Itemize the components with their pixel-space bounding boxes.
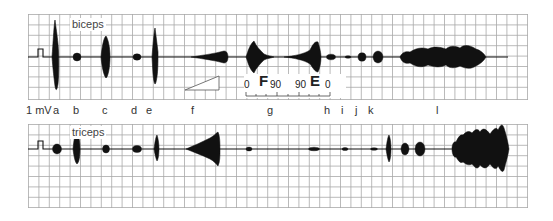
condition-label-l: l <box>436 103 438 117</box>
condition-label-d: d <box>131 103 137 117</box>
condition-label-f: f <box>191 103 194 117</box>
condition-label-h: h <box>324 103 330 117</box>
condition-label-i: i <box>341 103 343 117</box>
biceps-label: biceps <box>70 18 106 31</box>
condition-labels-row: 1 mV a b c d e f g h i j k l <box>0 103 553 119</box>
extension-letter: E <box>310 74 320 88</box>
condition-label-j: j <box>355 103 357 117</box>
condition-label-c: c <box>102 103 108 117</box>
condition-label-b: b <box>73 103 79 117</box>
flexion-letter: F <box>259 74 268 88</box>
ramp-triangle-icon <box>184 75 220 91</box>
condition-label-a: a <box>53 103 59 117</box>
flexion-extension-angle-scale: 0 F 90 90 E 0 <box>244 74 346 98</box>
calibration-label: 1 mV <box>26 103 52 117</box>
triceps-emg-panel: triceps <box>28 124 528 208</box>
condition-label-g: g <box>267 103 273 117</box>
condition-label-e: e <box>146 103 152 117</box>
condition-label-k: k <box>368 103 374 117</box>
angle-scale-ruler <box>244 90 346 98</box>
triceps-label: triceps <box>70 126 106 139</box>
